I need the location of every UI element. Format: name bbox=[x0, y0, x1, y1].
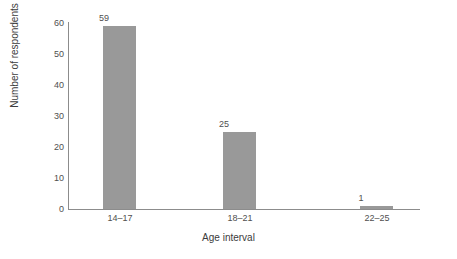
bar-chart: Number of respondents 0 10 20 30 40 50 6… bbox=[0, 0, 457, 259]
y-tick-label-20: 20 bbox=[40, 143, 64, 152]
y-tick-label-10: 10 bbox=[40, 174, 64, 183]
bars-layer bbox=[68, 23, 420, 209]
x-tick-label-18-21: 18–21 bbox=[210, 214, 270, 223]
bar-value-18-21: 25 bbox=[204, 120, 244, 129]
x-tick-label-14-17: 14–17 bbox=[90, 214, 150, 223]
x-axis-line bbox=[68, 209, 420, 210]
y-tick-label-50: 50 bbox=[40, 50, 64, 59]
y-tick-label-0: 0 bbox=[40, 205, 64, 214]
x-tick-label-22-25: 22–25 bbox=[347, 214, 407, 223]
y-tick-label-40: 40 bbox=[40, 81, 64, 90]
bar-value-14-17: 59 bbox=[84, 14, 124, 23]
x-axis-title: Age interval bbox=[0, 232, 457, 243]
y-axis-title: Number of respondents bbox=[9, 0, 20, 136]
y-axis-ticks: 0 10 20 30 40 50 60 bbox=[36, 0, 64, 259]
bar-18-21[interactable] bbox=[223, 132, 256, 210]
bar-value-22-25: 1 bbox=[341, 194, 381, 203]
bar-22-25[interactable] bbox=[360, 206, 393, 209]
bar-14-17[interactable] bbox=[103, 26, 136, 209]
y-tick-label-60: 60 bbox=[40, 19, 64, 28]
y-tick-label-30: 30 bbox=[40, 112, 64, 121]
